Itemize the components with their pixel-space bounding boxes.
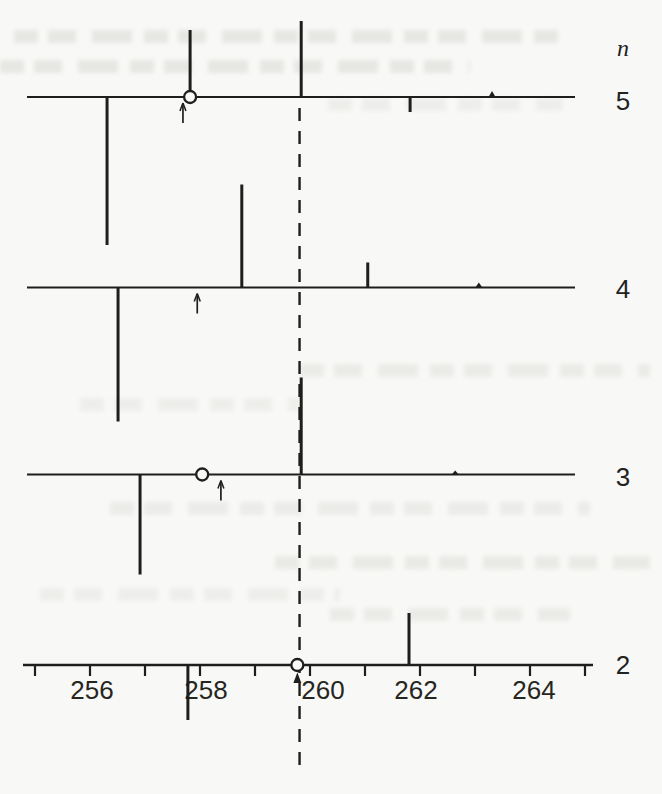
n-header-label: n	[604, 36, 642, 60]
circle-arrowhead	[293, 673, 301, 684]
panel-label-n3: 3	[604, 464, 642, 490]
spectra-figure: 256258260262264 n 5 4 3 2	[0, 0, 662, 794]
axis-tick-label: 260	[301, 675, 344, 705]
weak-line-bump	[489, 91, 496, 97]
panel-label-n5: 5	[604, 88, 642, 114]
axis-tick-label: 258	[184, 675, 227, 705]
weak-line-bump	[475, 283, 482, 288]
panel-label-n4: 4	[604, 276, 642, 302]
spectra-plot: 256258260262264	[0, 0, 662, 794]
panel-label-n2: 2	[604, 652, 642, 678]
circle-marker	[184, 91, 196, 103]
axis-tick-label: 262	[394, 675, 437, 705]
circle-marker	[291, 659, 303, 671]
circle-marker	[196, 469, 208, 481]
axis-tick-label: 256	[70, 675, 113, 705]
weak-line-bump	[452, 471, 459, 475]
axis-tick-label: 264	[512, 675, 555, 705]
